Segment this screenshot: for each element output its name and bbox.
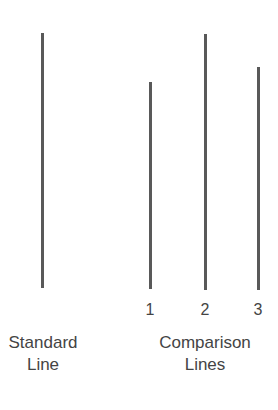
comparison-line-2 [204, 34, 207, 290]
line-judgment-diagram: 1 2 3 Standard Line Comparison Lines [0, 0, 278, 410]
standard-caption-line2: Line [0, 354, 89, 376]
comparison-lines-caption: Comparison Lines [144, 332, 266, 376]
comparison-line-1-number: 1 [140, 301, 160, 319]
comparison-line-3-number: 3 [248, 301, 268, 319]
standard-line [41, 33, 44, 288]
comparison-caption-line2: Lines [144, 354, 266, 376]
comparison-line-3 [257, 67, 260, 290]
comparison-line-1 [149, 82, 152, 289]
comparison-caption-line1: Comparison [144, 332, 266, 354]
standard-caption-line1: Standard [0, 332, 89, 354]
comparison-line-2-number: 2 [195, 301, 215, 319]
standard-line-caption: Standard Line [0, 332, 89, 376]
